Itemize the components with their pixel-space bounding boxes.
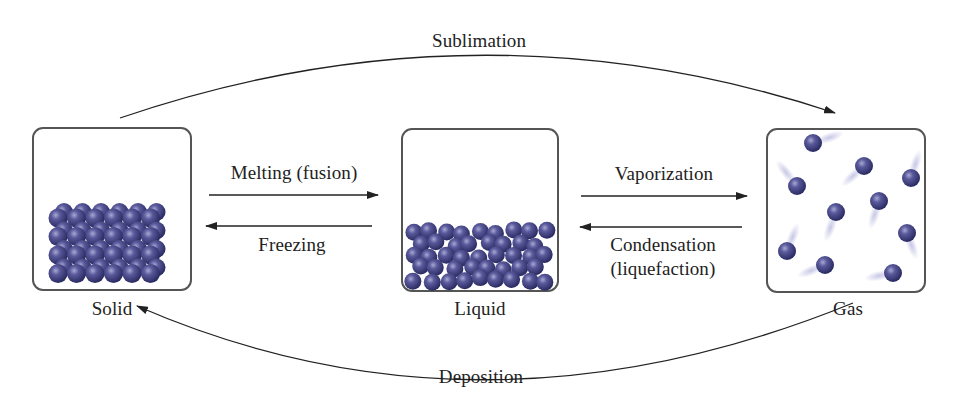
condensation-label: Condensation bbox=[610, 234, 716, 256]
particle-icon bbox=[804, 134, 822, 152]
particle-icon bbox=[472, 269, 489, 286]
melting-label: Melting (fusion) bbox=[231, 162, 358, 184]
particle-icon bbox=[527, 258, 544, 275]
solid-particles bbox=[49, 203, 166, 283]
liquid-particles bbox=[404, 221, 555, 290]
particle-icon bbox=[778, 242, 796, 260]
particle-icon bbox=[427, 259, 444, 276]
particle-icon bbox=[487, 271, 504, 288]
particle-icon bbox=[404, 273, 421, 290]
particle-icon bbox=[441, 273, 458, 290]
particle-icon bbox=[424, 274, 441, 291]
liquid-label: Liquid bbox=[454, 298, 505, 320]
solid-label: Solid bbox=[92, 298, 133, 320]
gas-particles bbox=[773, 128, 925, 284]
particle-icon bbox=[67, 264, 86, 283]
particles-layer bbox=[0, 0, 959, 406]
particle-icon bbox=[456, 272, 473, 289]
particle-icon bbox=[538, 222, 555, 239]
vaporization-label: Vaporization bbox=[615, 163, 713, 185]
particle-icon bbox=[827, 203, 845, 221]
particle-icon bbox=[898, 224, 916, 242]
particle-icon bbox=[536, 274, 553, 291]
particle-icon bbox=[902, 169, 920, 187]
freezing-label: Freezing bbox=[258, 234, 325, 256]
particle-icon bbox=[123, 264, 142, 283]
particle-icon bbox=[870, 192, 888, 210]
particle-icon bbox=[522, 273, 539, 290]
particle-icon bbox=[49, 264, 68, 283]
particle-icon bbox=[427, 233, 444, 250]
sublimation-label: Sublimation bbox=[432, 30, 526, 52]
particle-icon bbox=[884, 264, 902, 282]
particle-icon bbox=[816, 256, 834, 274]
deposition-label: Deposition bbox=[439, 366, 523, 388]
particle-icon bbox=[503, 271, 520, 288]
liquefaction-label: (liquefaction) bbox=[611, 258, 716, 280]
particle-icon bbox=[104, 264, 123, 283]
gas-label: Gas bbox=[833, 298, 863, 320]
particle-icon bbox=[86, 264, 105, 283]
particle-icon bbox=[855, 157, 873, 175]
particle-icon bbox=[460, 235, 477, 252]
particle-icon bbox=[412, 257, 429, 274]
particle-icon bbox=[788, 177, 806, 195]
particle-icon bbox=[141, 264, 160, 283]
